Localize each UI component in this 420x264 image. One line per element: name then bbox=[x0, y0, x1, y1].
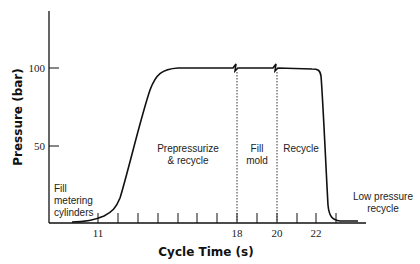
annotation-low-pressure: Low pressure bbox=[353, 191, 413, 202]
annotation-low-pressure: recycle bbox=[367, 203, 399, 214]
annotation-fill-mold: mold bbox=[246, 155, 268, 166]
y-tick-label-50: 50 bbox=[34, 140, 46, 152]
x-tick-label-20: 20 bbox=[272, 227, 284, 239]
annotation-recycle: Recycle bbox=[283, 143, 319, 154]
y-tick-label-100: 100 bbox=[29, 62, 46, 74]
annotation-fill-mold: Fill bbox=[251, 143, 264, 154]
x-axis-title: Cycle Time (s) bbox=[158, 245, 253, 259]
pressure-cycle-chart: 100 50 11 18 20 22 Fill metering cylinde… bbox=[0, 0, 420, 264]
x-tick-label-11: 11 bbox=[93, 227, 104, 239]
annotation-prepressurize: Prepressurize bbox=[157, 143, 219, 154]
annotation-fill-metering: cylinders bbox=[54, 207, 93, 218]
annotation-fill-metering: Fill bbox=[54, 183, 67, 194]
y-axis-title: Pressure (bar) bbox=[11, 68, 25, 166]
annotation-prepressurize: & recycle bbox=[167, 155, 209, 166]
x-tick-label-22: 22 bbox=[311, 227, 322, 239]
x-tick-label-18: 18 bbox=[232, 227, 244, 239]
annotation-fill-metering: metering bbox=[54, 195, 93, 206]
x-ticks bbox=[98, 213, 336, 223]
